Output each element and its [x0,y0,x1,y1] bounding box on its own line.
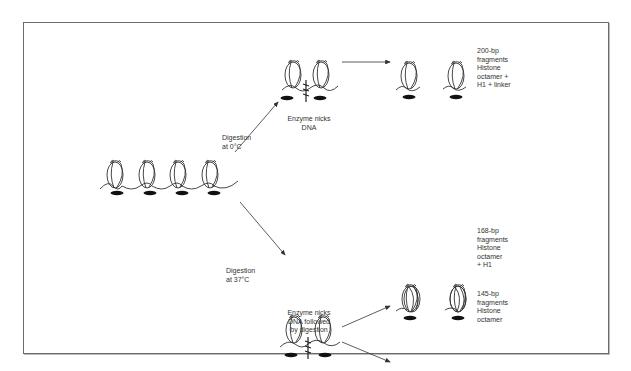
label-enzyme-nicks-digestion: Enzyme nicks DNA followed by digestion [274,309,344,335]
label-200bp: 200-bp fragments Histone octamer + H1 + … [477,47,511,90]
label-enzyme-nicks-dna: Enzyme nicks DNA [281,115,337,132]
label-145bp: 145-bp fragments Histone octamer [477,290,508,324]
product-200bp [396,61,466,99]
intermediate-0c [281,60,339,102]
arrow-to-37c [240,202,285,255]
label-digestion-0c: Digestion at 0°C [222,134,251,151]
arrow-to-145bp [342,342,390,362]
label-digestion-37c: Digestion at 37°C [226,267,255,284]
label-168bp: 168-bp fragments Histone octamer + H1 [477,227,508,270]
starting-chromatin [100,160,238,195]
arrow-to-168bp [342,306,390,327]
